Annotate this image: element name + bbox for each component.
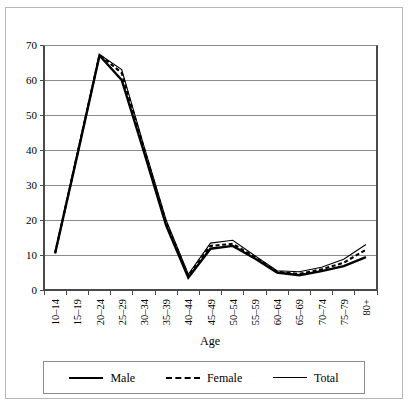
x-tick-label: 45–49	[206, 299, 217, 325]
x-tick-label: 15–19	[72, 299, 83, 325]
series-line-male	[55, 56, 366, 278]
y-tick-label: 30	[26, 179, 38, 191]
legend-label: Male	[110, 372, 135, 384]
x-tick-label: 50–54	[228, 298, 239, 325]
legend-row: MaleFemaleTotal	[44, 362, 364, 393]
line-chart: 010203040506070 10–1415–1920–2425–2930–3…	[0, 0, 409, 406]
chart-figure: 010203040506070 10–1415–1920–2425–2930–3…	[0, 0, 409, 406]
x-tick-label: 25–29	[117, 299, 128, 325]
legend-swatch-male-icon	[69, 377, 103, 379]
y-axis: 010203040506070	[26, 39, 44, 296]
y-tick-label: 50	[26, 109, 38, 121]
legend-label: Female	[207, 372, 242, 384]
x-tick-label: 30–34	[139, 298, 150, 325]
legend-item-total[interactable]: Total	[273, 372, 339, 384]
x-tick-label: 35–39	[161, 299, 172, 325]
x-tick-label: 80+	[361, 299, 372, 316]
legend-swatch-total-icon	[273, 377, 307, 378]
legend-label: Total	[314, 372, 339, 384]
x-tick-label: 40–44	[183, 298, 194, 325]
y-tick-label: 0	[32, 284, 38, 296]
legend-swatch-female-icon	[166, 377, 200, 379]
x-tick-label: 20–24	[95, 298, 106, 325]
y-tick-label: 10	[26, 249, 38, 261]
y-tick-label: 70	[26, 39, 38, 51]
legend-item-male[interactable]: Male	[69, 372, 135, 384]
chart-legend: MaleFemaleTotal	[43, 361, 365, 394]
x-tick-label: 60–64	[272, 298, 283, 325]
x-tick-labels: 10–1415–1920–2425–2930–3435–3940–4445–49…	[50, 298, 372, 325]
y-tick-label: 60	[26, 74, 38, 86]
y-tick-label: 40	[26, 144, 38, 156]
x-tick-label: 65–69	[294, 299, 305, 325]
data-series-group	[55, 54, 366, 277]
x-axis-title: Age	[200, 334, 220, 348]
x-tick-label: 75–79	[339, 299, 350, 325]
legend-item-female[interactable]: Female	[166, 372, 242, 384]
x-tick-label: 10–14	[50, 298, 61, 325]
x-tick-label: 55–59	[250, 299, 261, 325]
x-tick-label: 70–74	[317, 298, 328, 325]
y-tick-label: 20	[26, 214, 38, 226]
series-line-total	[55, 54, 366, 274]
